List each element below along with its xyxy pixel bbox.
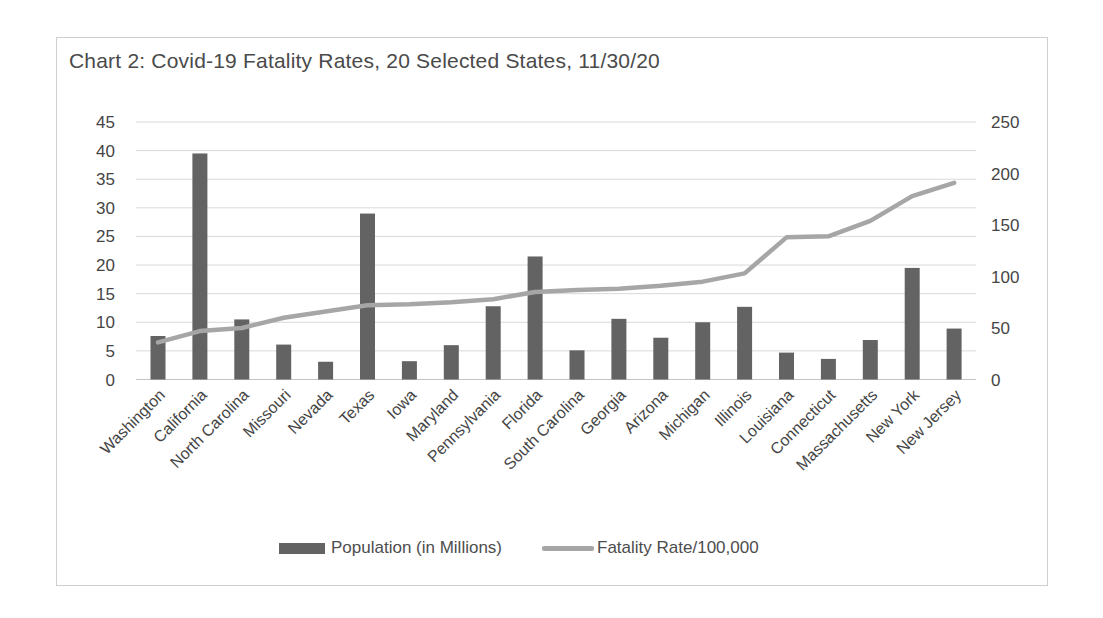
left-axis-tick: 25: [96, 227, 115, 246]
bar-Iowa: [402, 361, 417, 379]
left-axis-tick: 35: [96, 170, 115, 189]
left-axis-tick: 5: [106, 342, 115, 361]
right-axis-tick: 0: [991, 371, 1000, 390]
bar-New Jersey: [947, 329, 962, 380]
legend-item-fatality-rate: Fatality Rate/100,000: [542, 538, 759, 558]
left-axis-tick: 0: [106, 371, 115, 390]
bar-South Carolina: [570, 350, 585, 379]
bar-Connecticut: [821, 359, 836, 380]
legend-item-population: Population (in Millions): [279, 538, 502, 558]
bar-Michigan: [695, 322, 710, 379]
left-axis-tick: 40: [96, 142, 115, 161]
bar-Florida: [528, 256, 543, 379]
x-label-Georgia: Georgia: [577, 386, 629, 438]
chart-frame: 051015202530354045050100150200250Washing…: [56, 37, 1048, 586]
right-axis-tick: 250: [991, 113, 1019, 132]
chart-title: Chart 2: Covid-19 Fatality Rates, 20 Sel…: [69, 49, 660, 73]
left-axis-tick: 15: [96, 285, 115, 304]
bar-New York: [905, 268, 920, 380]
bar-Texas: [360, 214, 375, 380]
bar-Massachusetts: [863, 340, 878, 379]
right-axis-tick: 50: [991, 319, 1010, 338]
left-axis-tick: 45: [96, 113, 115, 132]
fatality-rate-line: [158, 183, 954, 343]
bar-Arizona: [653, 338, 668, 380]
legend-label-fatality-rate: Fatality Rate/100,000: [597, 538, 759, 558]
right-axis-tick: 100: [991, 268, 1019, 287]
bar-Missouri: [276, 345, 291, 380]
left-axis-tick: 20: [96, 256, 115, 275]
x-label-Washington: Washington: [97, 386, 168, 457]
bar-Nevada: [318, 362, 333, 380]
combo-chart-plot: 051015202530354045050100150200250Washing…: [57, 38, 1049, 587]
legend-label-population: Population (in Millions): [331, 538, 502, 558]
bar-California: [192, 153, 207, 379]
x-label-Nevada: Nevada: [285, 386, 336, 437]
line-series-swatch-icon: [542, 546, 594, 551]
bar-Illinois: [737, 307, 752, 380]
bar-series-swatch-icon: [279, 543, 325, 554]
bar-Georgia: [611, 319, 626, 380]
x-label-Texas: Texas: [336, 386, 378, 428]
bar-Maryland: [444, 345, 459, 379]
left-axis-tick: 10: [96, 313, 115, 332]
left-axis-tick: 30: [96, 199, 115, 218]
right-axis-tick: 200: [991, 165, 1019, 184]
bar-Louisiana: [779, 353, 794, 380]
x-label-Pennsylvania: Pennsylvania: [424, 386, 503, 465]
right-axis-tick: 150: [991, 216, 1019, 235]
page: 051015202530354045050100150200250Washing…: [0, 0, 1103, 618]
bar-Pennsylvania: [486, 306, 501, 379]
x-label-Iowa: Iowa: [384, 386, 420, 422]
legend: Population (in Millions) Fatality Rate/1…: [279, 538, 759, 558]
